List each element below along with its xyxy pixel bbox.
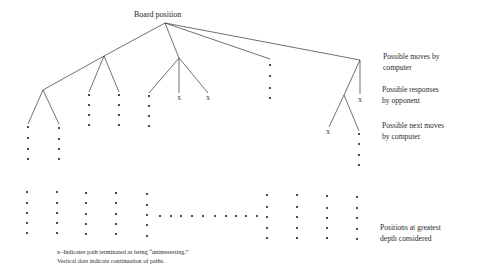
level-label-opponent-responses: Possible responses by opponent [382, 85, 439, 106]
level-label-greatest-depth: Positions at greatest depth considered [380, 223, 441, 244]
terminated-path-marker: x [358, 95, 362, 104]
tree-edges [28, 23, 360, 131]
legend-line-terminated: x–Indicates path terminated as being “un… [57, 248, 189, 257]
level-label-line: Possible responses [382, 85, 439, 96]
terminated-path-marker: x [206, 93, 210, 102]
level-label-line: by computer [382, 132, 444, 143]
level-label-computer-moves: Possible moves by computer [383, 52, 440, 73]
root-label: Board position [134, 10, 181, 19]
level-label-line: Possible next moves [382, 121, 444, 132]
level-label-line: by opponent [382, 96, 439, 107]
legend-line-continuation: Vertical dots indicate continuation of p… [57, 257, 189, 266]
continuation-dots [26, 64, 360, 240]
level-label-line: Possible moves by [383, 52, 440, 63]
legend-note: x–Indicates path terminated as being “un… [57, 248, 189, 265]
level-label-line: depth considered [380, 234, 441, 245]
terminated-path-marker: x [177, 93, 181, 102]
level-label-line: Positions at greatest [380, 223, 441, 234]
level-label-next-computer-moves: Possible next moves by computer [382, 121, 444, 142]
terminated-path-marker: x [326, 127, 330, 136]
level-label-line: computer [383, 63, 440, 74]
